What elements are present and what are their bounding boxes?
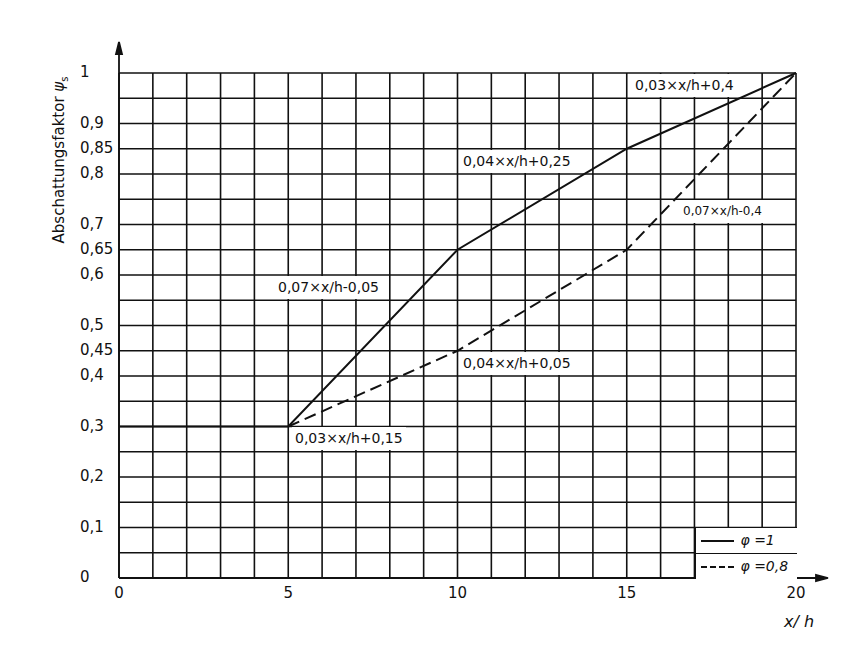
y-tick-label: 0,45 [80,343,113,358]
legend-entry-dashed: φ =0,8 [700,555,788,577]
legend-label-solid: φ =1 [740,532,774,548]
legend: φ =1 φ =0,8 [695,527,797,579]
x-tick-label: 20 [781,586,811,601]
y-tick-label: 0,7 [80,217,104,232]
x-tick-label: 10 [443,586,473,601]
solid-line-icon [700,536,736,546]
y-axis-arrow-icon [116,42,122,54]
psi-subscript: s [59,77,70,82]
y-tick-label: 0,3 [80,419,104,434]
annotation-phi1-segment-10-15: 0,04×x/h+0,25 [460,150,574,173]
annotation-phi08-segment-5-10: 0,03×x/h+0,15 [292,427,406,450]
y-axis-label: Abschattungsfaktor ψs [50,77,70,244]
legend-entry-solid: φ =1 [700,529,775,551]
grid [119,73,796,578]
x-tick-label: 15 [612,586,642,601]
x-axis-label: x/ h [784,612,814,631]
y-axis-label-text: Abschattungsfaktor [50,92,68,244]
y-tick-label: 0,6 [80,267,104,282]
psi-symbol: ψ [50,82,68,92]
x-tick-label: 0 [104,586,134,601]
dashed-line-icon [700,562,736,572]
y-tick-label: 0 [80,570,90,585]
legend-label-dashed: φ =0,8 [740,558,788,574]
x-tick-label: 5 [273,586,303,601]
y-tick-label: 0,85 [80,141,113,156]
y-tick-label: 0,65 [80,242,113,257]
y-tick-label: 0,8 [80,166,104,181]
annotation-phi08-segment-15-20: 0,07×x/h-0,4 [680,200,765,223]
y-tick-label: 0,4 [80,368,104,383]
x-axis-arrow-icon [816,575,828,581]
y-tick-label: 1 [80,65,90,80]
y-tick-label: 0,1 [80,520,104,535]
y-tick-label: 0,9 [80,116,104,131]
annotation-phi1-segment-5-10: 0,07×x/h-0,05 [275,276,382,299]
annotation-phi08-segment-10-15: 0,04×x/h+0,05 [460,352,574,375]
y-tick-label: 0,2 [80,469,104,484]
y-tick-label: 0,5 [80,318,104,333]
annotation-phi1-segment-15-20: 0,03×x/h+0,4 [632,74,737,97]
legend-divider [696,553,797,554]
